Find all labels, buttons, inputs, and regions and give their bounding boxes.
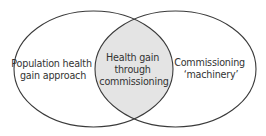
right-set-label-line: Commissioning (174, 57, 245, 68)
left-set-label: Population health gain approach (11, 58, 94, 81)
right-set-label-line: ‘machinery’ (184, 69, 239, 80)
intersection-label-line: through (114, 64, 150, 75)
left-set-label-line: gain approach (20, 70, 86, 81)
left-set-label-line: Population health (11, 58, 92, 69)
venn-diagram: Population health gain approach Health g… (0, 0, 266, 136)
intersection-label-line: Health gain (106, 52, 159, 63)
intersection-label-line: commissioning (99, 76, 168, 87)
right-set-label: Commissioning ‘machinery’ (174, 57, 248, 80)
